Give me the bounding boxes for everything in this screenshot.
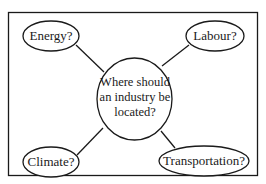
center-line-3: located? [97, 105, 173, 120]
connector-climate [77, 128, 103, 155]
transportation-label: Transportation? [159, 153, 249, 168]
connector-energy [76, 45, 104, 72]
climate-label: Climate? [23, 154, 79, 169]
center-label: Where should an industry be located? [97, 75, 173, 120]
center-line-2: an industry be [97, 90, 173, 105]
connector-transportation [161, 131, 175, 148]
energy-label: Energy? [23, 28, 79, 43]
center-line-1: Where should [97, 75, 173, 90]
connector-labour [162, 45, 189, 66]
labour-label: Labour? [186, 28, 244, 43]
